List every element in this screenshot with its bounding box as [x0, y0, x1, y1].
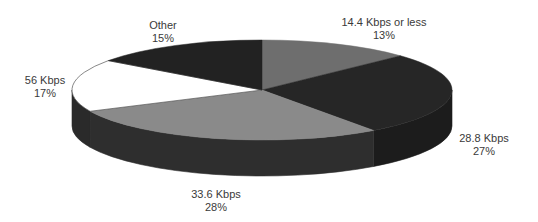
label-28-8-kbps: 28.8 Kbps 27% [459, 132, 509, 158]
pie-chart-3d [0, 0, 538, 222]
label-33-6-name: 33.6 Kbps [191, 188, 241, 201]
label-14-4-pct: 13% [342, 29, 427, 42]
label-14-4-name: 14.4 Kbps or less [342, 16, 427, 29]
label-33-6-kbps: 33.6 Kbps 28% [191, 188, 241, 214]
label-other-name: Other [149, 19, 177, 32]
label-56-pct: 17% [25, 87, 65, 100]
label-28-8-pct: 27% [459, 145, 509, 158]
label-56-kbps: 56 Kbps 17% [25, 74, 65, 100]
label-56-name: 56 Kbps [25, 74, 65, 87]
label-33-6-pct: 28% [191, 201, 241, 214]
label-14-4-kbps: 14.4 Kbps or less 13% [342, 16, 427, 42]
label-other-pct: 15% [149, 32, 177, 45]
label-28-8-name: 28.8 Kbps [459, 132, 509, 145]
label-other: Other 15% [149, 19, 177, 45]
pie-top-slices [72, 40, 452, 140]
